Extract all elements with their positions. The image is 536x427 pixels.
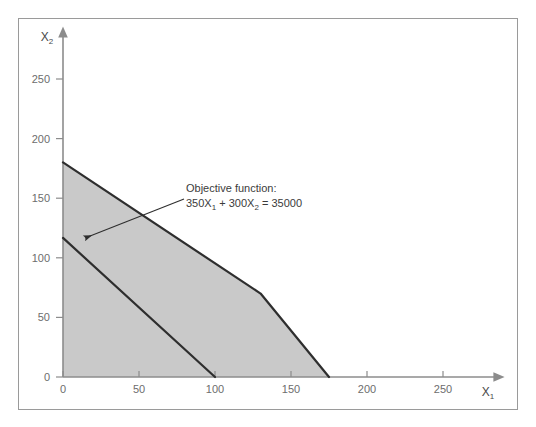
- feasible-region-polygon: [63, 162, 329, 377]
- annotation-rhs: 35000: [271, 197, 302, 209]
- feasible-region: [63, 162, 329, 377]
- x-tick-label: 150: [282, 383, 300, 395]
- x-tick-label: 100: [206, 383, 224, 395]
- y-axis-ticks: 050100150200250: [32, 73, 63, 383]
- x-axis-title-text: X1: [482, 385, 495, 401]
- annotation-coef-2: 300X: [229, 197, 255, 209]
- chart-canvas: 050100150200250 050100150200250 Objectiv…: [0, 0, 536, 427]
- y-tick-label: 0: [44, 371, 50, 383]
- annotation-equals: =: [259, 197, 272, 209]
- x-axis-title-base: X: [482, 385, 490, 399]
- y-axis-title-subscript: 2: [49, 37, 54, 46]
- x-tick-label: 250: [434, 383, 452, 395]
- y-tick-label: 100: [32, 252, 50, 264]
- y-axis-title: X2: [41, 30, 54, 46]
- annotation-line-1: Objective function:: [186, 182, 277, 194]
- annotation-coef-1: 350X: [186, 197, 212, 209]
- x-tick-label: 0: [60, 383, 66, 395]
- x-tick-label: 50: [133, 383, 145, 395]
- y-axis-title-base: X: [41, 30, 49, 44]
- y-tick-label: 150: [32, 192, 50, 204]
- y-tick-label: 250: [32, 73, 50, 85]
- x-tick-label: 200: [358, 383, 376, 395]
- x-axis-title-subscript: 1: [490, 392, 495, 401]
- chart-page: 050100150200250 050100150200250 Objectiv…: [0, 0, 536, 427]
- y-tick-label: 200: [32, 133, 50, 145]
- x-axis-title: X1: [482, 385, 495, 401]
- annotation-line-2: 350X1 + 300X2 = 35000: [186, 197, 302, 212]
- y-axis-title-text: X2: [41, 30, 54, 46]
- annotation-plus: +: [216, 197, 229, 209]
- objective-function-annotation: Objective function: 350X1 + 300X2 = 3500…: [186, 182, 302, 212]
- y-tick-label: 50: [38, 311, 50, 323]
